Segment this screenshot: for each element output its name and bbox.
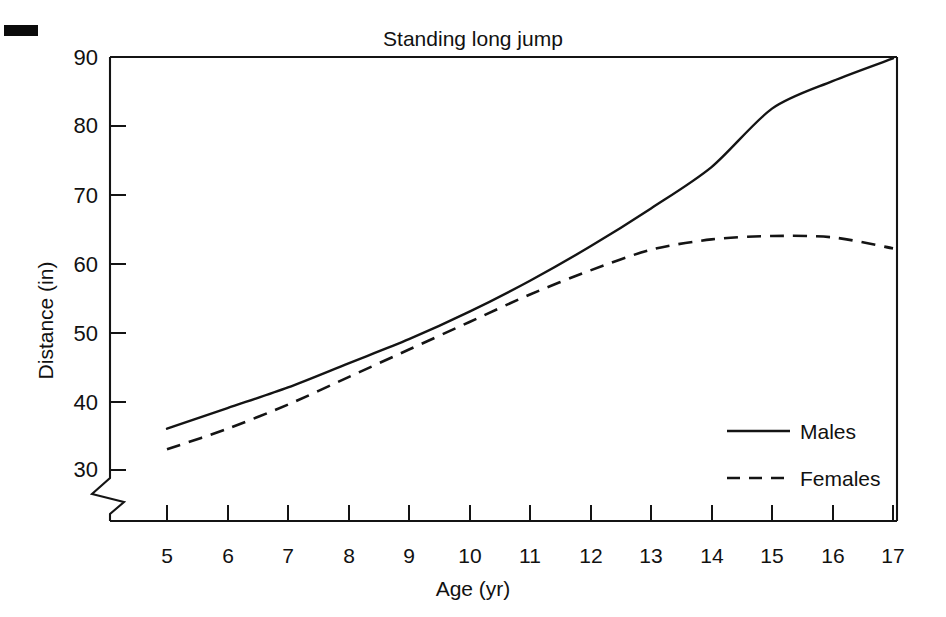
plot-svg <box>0 0 946 617</box>
figure-standing-long-jump: Standing long jump Distance (in) Age (yr… <box>0 0 946 617</box>
series-line-females <box>167 236 893 450</box>
series-line-males <box>167 58 893 428</box>
